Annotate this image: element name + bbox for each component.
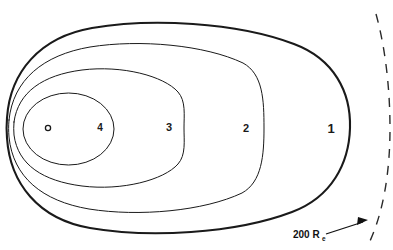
contour-label-2: 2 bbox=[243, 122, 249, 134]
diagram-canvas: 1 2 3 4 200 R e bbox=[0, 0, 393, 250]
figure-container: 1 2 3 4 200 R e bbox=[0, 0, 393, 250]
boundary-annotation-subscript: e bbox=[322, 235, 326, 242]
boundary-annotation-label: 200 R bbox=[293, 229, 320, 240]
contour-label-4: 4 bbox=[97, 122, 103, 133]
contour-label-1: 1 bbox=[327, 121, 334, 136]
contour-label-3: 3 bbox=[166, 121, 172, 133]
